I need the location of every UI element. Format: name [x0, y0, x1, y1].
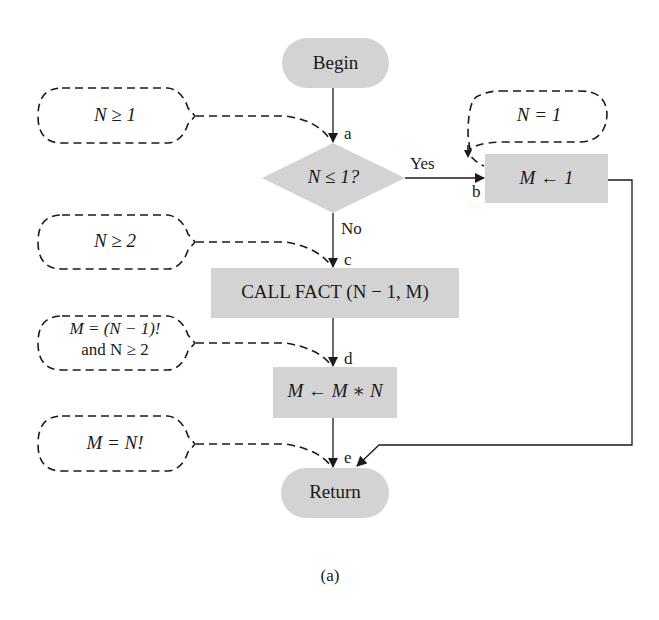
assertion-text-d-line2: and N ≥ 2: [40, 341, 190, 360]
yes-edge-label: Yes: [410, 155, 435, 174]
begin-label: Begin: [282, 53, 389, 74]
assertion-text-d-line1: M = (N − 1)!: [40, 320, 190, 339]
flowchart-canvas: [0, 0, 659, 620]
return-label: Return: [281, 482, 389, 503]
figure-caption: (a): [300, 567, 360, 586]
assertion-text-e: M = N!: [40, 433, 190, 454]
no-edge-label: No: [341, 220, 362, 239]
assertion-connector-c: [196, 242, 331, 266]
point-label-c: c: [344, 250, 352, 270]
assertion-text-b: N = 1: [470, 105, 608, 126]
decision-label: N ≤ 1?: [262, 167, 405, 188]
assign-one-label: M ← 1: [485, 168, 608, 189]
point-label-a: a: [344, 124, 352, 144]
assertion-connector-d: [196, 343, 331, 365]
multiply-label: M ← M ∗ N: [273, 381, 397, 402]
assertion-text-a: N ≥ 1: [40, 105, 190, 126]
point-label-b: b: [472, 182, 481, 202]
assertion-text-c: N ≥ 2: [40, 231, 190, 252]
assertion-connector-e: [196, 444, 331, 466]
point-label-d: d: [344, 349, 353, 369]
arrowhead-b: [464, 150, 472, 158]
edge-assign-to-return: [357, 180, 632, 466]
point-label-e: e: [344, 448, 352, 468]
assertion-connector-a: [196, 116, 331, 141]
call-fact-label: CALL FACT (N − 1, M): [211, 282, 459, 303]
